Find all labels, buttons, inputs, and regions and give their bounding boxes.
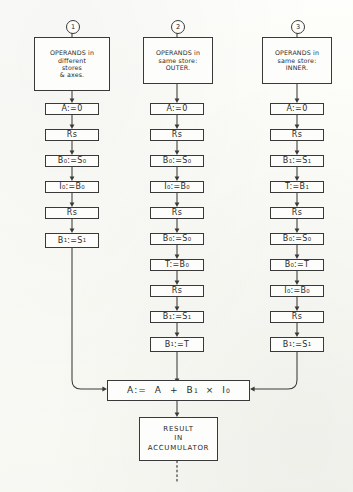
c3-step-3: B1:=S1	[270, 155, 324, 167]
flowchart-canvas: 1 OPERANDS in different stores & axes. A…	[0, 0, 353, 492]
c3-step-9: Rs	[270, 311, 324, 323]
c2-step-10: B1:=T	[150, 337, 204, 352]
c3-step-6: B0:=S0	[270, 233, 324, 245]
result-box: RESULT IN ACCUMULATOR	[139, 417, 218, 461]
column-2-header-line-1: OPERANDS in	[156, 49, 200, 56]
column-2-header-line-3: OUTER.	[166, 64, 190, 71]
c1-step-6: B1:=S1	[45, 233, 99, 248]
result-line-3: ACCUMULATOR	[148, 444, 209, 453]
c2-step-5: Rs	[150, 207, 204, 219]
column-1-header: OPERANDS in different stores & axes.	[34, 37, 110, 91]
c2-step-9: B1:=S1	[150, 311, 204, 323]
column-2-header: OPERANDS in same store: OUTER.	[143, 37, 213, 84]
c2-step-3: B0:=S0	[150, 155, 204, 167]
step-marker-3: 3	[291, 20, 305, 34]
c3-step-1: A:=0	[270, 103, 324, 115]
c2-step-2: Rs	[150, 129, 204, 141]
c2-step-4: I0:=B0	[150, 181, 204, 193]
column-1-header-line-1: OPERANDS in	[50, 49, 94, 56]
c3-step-4: T:=B1	[270, 181, 324, 193]
column-3-header-line-2: same store:	[278, 57, 317, 64]
step-marker-2: 2	[171, 20, 185, 34]
column-1-header-line-3: stores	[62, 64, 82, 71]
c3-step-2: Rs	[270, 129, 324, 141]
c1-step-4: I0:=B0	[45, 181, 99, 193]
c1-step-1: A:=0	[45, 103, 99, 115]
c3-step-8: I0:=B0	[270, 285, 324, 297]
c1-step-3: B0:=S0	[45, 155, 99, 167]
column-3-header-line-3: INNER.	[286, 64, 308, 71]
result-line-2: IN	[174, 434, 183, 443]
c1-step-2: Rs	[45, 129, 99, 141]
c2-step-6: B0:=S0	[150, 233, 204, 245]
column-3-header-line-1: OPERANDS in	[275, 49, 319, 56]
column-3-header: OPERANDS in same store: INNER.	[262, 37, 332, 84]
c2-step-1: A:=0	[150, 103, 204, 115]
column-1-header-line-2: different	[58, 57, 86, 64]
c2-step-7: T:=B0	[150, 259, 204, 271]
c1-step-5: Rs	[45, 207, 99, 219]
result-line-1: RESULT	[163, 425, 193, 434]
c2-step-8: Rs	[150, 285, 204, 297]
column-2-header-line-2: same store:	[159, 57, 198, 64]
c3-step-5: Rs	[270, 207, 324, 219]
accumulator-box: A:= A + B1 × I0	[107, 380, 250, 401]
c3-step-7: B0:=T	[270, 259, 324, 271]
column-1-header-line-4: & axes.	[60, 71, 85, 78]
step-marker-1: 1	[66, 20, 80, 34]
c3-step-10: B1:=S1	[270, 337, 324, 352]
